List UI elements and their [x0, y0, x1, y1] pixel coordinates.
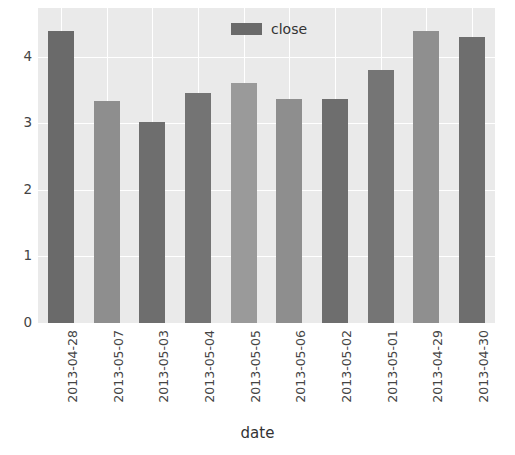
- y-tick-label: 3: [4, 116, 32, 130]
- y-tick-label: 1: [4, 250, 32, 264]
- x-tick-label: 2013-05-04: [204, 330, 217, 403]
- bar: [139, 122, 165, 323]
- x-tick-label: 2013-05-05: [250, 330, 263, 403]
- x-tick-label: 2013-04-30: [478, 330, 491, 403]
- y-tick-label: 4: [4, 50, 32, 64]
- bar-chart-figure: 01234 2013-04-282013-05-072013-05-032013…: [0, 0, 515, 455]
- x-tick-label: 2013-05-06: [295, 330, 308, 403]
- bar: [276, 99, 302, 323]
- bar: [185, 93, 211, 323]
- bar: [459, 37, 485, 323]
- bar: [322, 99, 348, 323]
- y-tick-label: 0: [4, 316, 32, 330]
- x-tick-label: 2013-05-03: [158, 330, 171, 403]
- legend-swatch-close: [231, 23, 262, 35]
- x-tick-label: 2013-05-02: [341, 330, 354, 403]
- x-tick-label: 2013-04-29: [432, 330, 445, 403]
- y-tick-label: 2: [4, 183, 32, 197]
- x-tick-label: 2013-04-28: [67, 330, 80, 403]
- bar: [231, 83, 257, 323]
- x-tick-label: 2013-05-01: [387, 330, 400, 403]
- legend-label-close: close: [271, 22, 307, 36]
- x-axis-label: date: [0, 424, 515, 442]
- x-tick-label: 2013-05-07: [113, 330, 126, 403]
- bar: [368, 70, 394, 323]
- plot-area: [38, 8, 495, 323]
- x-axis: 2013-04-282013-05-072013-05-032013-05-04…: [0, 330, 515, 430]
- legend: close: [231, 22, 307, 36]
- bar: [94, 101, 120, 323]
- bar: [48, 31, 74, 323]
- bar: [413, 31, 439, 323]
